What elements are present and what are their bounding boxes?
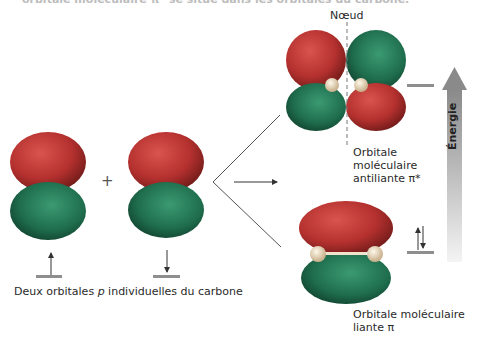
p-orbital-left bbox=[10, 132, 86, 240]
bonding-level bbox=[407, 251, 434, 254]
plus-sign: + bbox=[101, 172, 114, 190]
bonding-label-line: liante π bbox=[353, 321, 465, 334]
antibonding-label: Orbitale moléculaire antiliante π* bbox=[353, 146, 421, 185]
antibonding-label-line: antiliante π* bbox=[353, 172, 421, 185]
p-label-italic: p bbox=[98, 285, 105, 298]
antibonding-orbital bbox=[286, 22, 406, 148]
p-level-right bbox=[153, 275, 180, 278]
bonding-label-line: Orbitale moléculaire bbox=[353, 308, 465, 321]
p-label-after: individuelles du carbone bbox=[105, 285, 243, 298]
p-orbitals-label: Deux orbitales p individuelles du carbon… bbox=[14, 285, 243, 298]
p-orbital-right bbox=[128, 132, 204, 238]
p-label-before: Deux orbitales bbox=[14, 285, 98, 298]
antibonding-label-line: moléculaire bbox=[353, 159, 421, 172]
antibonding-label-line: Orbitale bbox=[353, 146, 421, 159]
node-label: Nœud bbox=[330, 9, 363, 22]
bonding-orbital bbox=[299, 201, 393, 304]
bonding-label: Orbitale moléculaire liante π bbox=[353, 308, 465, 334]
energy-label: Énergie bbox=[446, 80, 459, 150]
p-level-left bbox=[36, 275, 62, 278]
antibonding-level bbox=[407, 84, 434, 87]
